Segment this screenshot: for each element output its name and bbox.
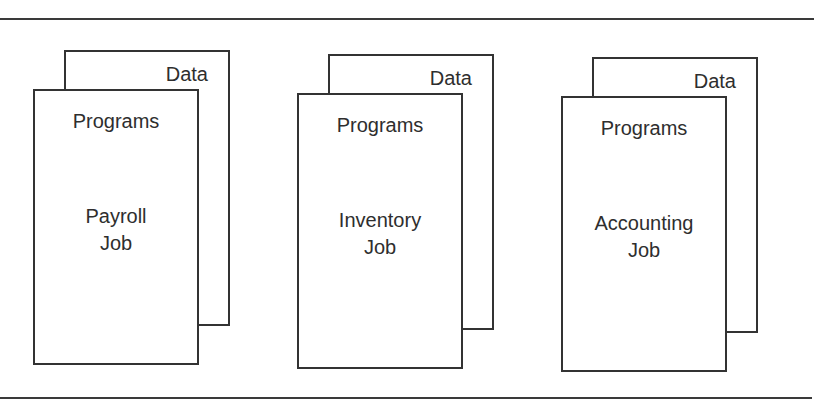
data-label: Data [694, 69, 736, 93]
job-name-line2: Job [299, 234, 461, 261]
job-name-line2: Job [563, 237, 725, 264]
programs-page: Programs Accounting Job [561, 96, 727, 372]
job-name: Inventory Job [299, 207, 461, 261]
programs-page: Programs Inventory Job [297, 93, 463, 369]
job-name: Accounting Job [563, 210, 725, 264]
job-group-accounting: Data Programs Accounting Job [561, 57, 761, 377]
job-name-line2: Job [35, 230, 197, 257]
job-name: Payroll Job [35, 203, 197, 257]
bottom-rule-line [0, 397, 812, 399]
programs-label: Programs [299, 113, 461, 137]
data-label: Data [430, 66, 472, 90]
job-name-line1: Accounting [563, 210, 725, 237]
job-group-inventory: Data Programs Inventory Job [297, 54, 497, 374]
programs-page: Programs Payroll Job [33, 89, 199, 365]
job-name-line1: Inventory [299, 207, 461, 234]
top-rule-line [0, 18, 814, 20]
job-group-payroll: Data Programs Payroll Job [33, 50, 233, 370]
data-label: Data [166, 62, 208, 86]
job-name-line1: Payroll [35, 203, 197, 230]
programs-label: Programs [563, 116, 725, 140]
programs-label: Programs [35, 109, 197, 133]
